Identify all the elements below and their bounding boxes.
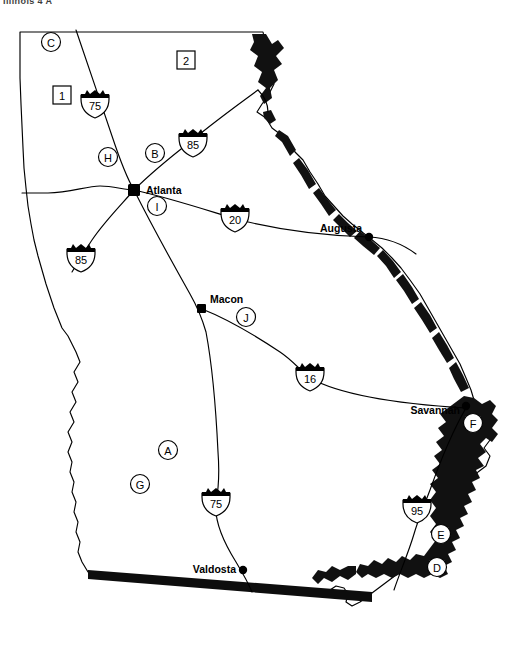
- marker-d-letter: D: [433, 562, 441, 574]
- box-marker-2: 2: [177, 51, 195, 69]
- marker-b-letter: B: [151, 148, 158, 160]
- marker-h: H: [99, 148, 118, 167]
- marker-i-letter: I: [155, 201, 158, 213]
- marker-c: C: [42, 33, 61, 52]
- box-marker-1-number: 1: [59, 90, 65, 102]
- marker-i: I: [148, 197, 167, 216]
- city-dot-macon: [197, 304, 206, 313]
- marker-c-letter: C: [47, 37, 55, 49]
- marker-a-letter: A: [164, 445, 172, 457]
- marker-h-letter: H: [104, 152, 112, 164]
- shield-number-75-north: 75: [89, 100, 101, 112]
- shield-number-85-northeast: 85: [187, 139, 199, 151]
- shield-number-20: 20: [229, 214, 241, 226]
- shield-number-75-south: 75: [210, 498, 222, 510]
- city-dot-savannah: [462, 402, 470, 410]
- marker-a: A: [159, 441, 178, 460]
- box-marker-2-number: 2: [183, 55, 189, 67]
- shield-number-95: 95: [411, 505, 423, 517]
- marker-f-letter: F: [470, 418, 477, 430]
- marker-e: E: [432, 525, 451, 544]
- city-label-augusta: Augusta: [320, 222, 362, 234]
- marker-f: F: [464, 414, 483, 433]
- city-dot-atlanta: [128, 184, 140, 196]
- city-label-savannah: Savannah: [410, 404, 460, 416]
- city-label-macon: Macon: [210, 293, 243, 305]
- marker-j: J: [237, 308, 256, 327]
- city-label-atlanta: Atlanta: [146, 184, 182, 196]
- cropped-header-text: Illinois 4 A: [3, 0, 52, 6]
- map-svg-canvas: Atlanta Augusta Macon Savannah Valdosta: [0, 0, 516, 653]
- marker-b: B: [146, 144, 165, 163]
- city-atlanta: Atlanta: [128, 184, 182, 196]
- shield-number-85-southwest: 85: [75, 254, 87, 266]
- marker-j-letter: J: [243, 312, 249, 324]
- city-dot-valdosta: [239, 566, 247, 574]
- marker-g: G: [131, 475, 150, 494]
- marker-d: D: [428, 558, 447, 577]
- city-dot-augusta: [365, 233, 373, 241]
- city-label-valdosta: Valdosta: [193, 563, 236, 575]
- marker-g-letter: G: [136, 479, 145, 491]
- marker-e-letter: E: [437, 529, 444, 541]
- box-marker-1: 1: [53, 86, 71, 104]
- shield-number-16: 16: [304, 373, 316, 385]
- georgia-map-figure: Illinois 4 A: [0, 0, 516, 653]
